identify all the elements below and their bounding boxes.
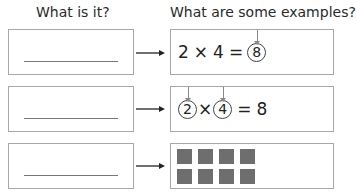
answer-blank-3[interactable] <box>24 175 118 176</box>
circled-factor-1: 2 <box>178 100 197 119</box>
arrow-icon-3 <box>136 161 166 171</box>
header-what-is-it: What is it? <box>36 4 110 20</box>
answer-blank-2[interactable] <box>24 118 118 119</box>
term-box-2[interactable] <box>8 86 134 132</box>
answer-blank-1[interactable] <box>24 61 118 62</box>
example-box-3 <box>170 143 334 189</box>
factor: 2 <box>178 42 189 62</box>
term-box-1[interactable] <box>8 29 134 75</box>
arrow-icon-1 <box>136 48 166 58</box>
factor-value: 2 <box>183 101 192 117</box>
header-examples: What are some examples? <box>170 4 356 20</box>
array-2x4 <box>177 149 255 184</box>
factor: 4 <box>213 42 224 62</box>
product: 8 <box>257 99 268 119</box>
array-square <box>219 169 234 184</box>
circled-product: 8 <box>247 43 266 62</box>
array-square <box>240 169 255 184</box>
array-square <box>219 149 234 164</box>
factor-value: 4 <box>218 101 227 117</box>
pointer-arrow-icon <box>257 30 258 42</box>
array-square <box>240 149 255 164</box>
array-square <box>177 149 192 164</box>
arrow-icon-2 <box>136 104 166 114</box>
equation-product: 2 × 4 = 8 <box>178 42 266 62</box>
pointer-arrow-icon <box>223 87 224 99</box>
product-value: 8 <box>252 44 261 60</box>
term-box-3[interactable] <box>8 143 134 189</box>
array-square <box>198 169 213 184</box>
equals-sign: = <box>229 42 243 62</box>
circled-factor-2: 4 <box>213 100 232 119</box>
example-box-1: 2 × 4 = 8 <box>170 29 334 75</box>
times-sign: × <box>194 42 208 62</box>
times-sign: × <box>198 99 212 119</box>
array-square <box>198 149 213 164</box>
example-box-2: 2 × 4 = 8 <box>170 86 334 132</box>
equals-sign: = <box>237 99 251 119</box>
equation-factors: 2 × 4 = 8 <box>178 99 267 119</box>
array-square <box>177 169 192 184</box>
pointer-arrow-icon <box>188 87 189 99</box>
